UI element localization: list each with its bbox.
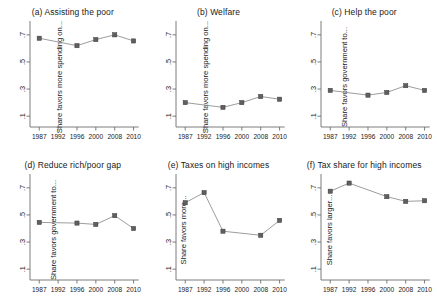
series-line [185,193,279,236]
x-tick-label: 2010 [126,286,141,293]
chart-panel-d: (d) Reduce rich/poor gapShare favors gov… [0,153,146,306]
y-tick-label: .3 [18,239,27,245]
y-tick-label: .7 [164,32,173,38]
data-point-marker [258,233,262,237]
x-tick-label: 1996 [361,286,376,293]
data-point-marker [75,221,79,225]
y-tick-label: .5 [18,59,27,65]
y-tick-label: .1 [164,113,173,119]
x-tick-label: 1992 [342,133,357,140]
x-tick-label: 2000 [89,286,104,293]
y-tick-label: .7 [310,32,319,38]
data-point-marker [347,181,351,185]
x-tick-label: 1992 [196,286,211,293]
x-tick-label: 2008 [107,286,122,293]
data-point-marker [366,93,370,97]
plot-area-c: .1.3.5.7198719921996200020082010 [291,0,437,153]
plot-area-e: .1.3.5.7198719921996200020082010 [146,153,292,306]
chart-panel-b: (b) WelfareShare favors more spending on… [146,0,292,153]
data-point-marker [221,229,225,233]
x-tick-label: 1987 [178,286,193,293]
data-point-marker [277,218,281,222]
y-tick-label: .1 [164,266,173,272]
data-point-marker [328,189,332,193]
chart-panel-c: (c) Help the poorShare favors government… [291,0,437,153]
series-line [185,97,279,108]
x-tick-label: 2008 [399,133,414,140]
data-point-marker [328,88,332,92]
y-tick-label: .5 [310,59,319,65]
plot-area-b: .1.3.5.7198719921996200020082010 [146,0,292,153]
data-point-marker [404,84,408,88]
plot-area-f: .1.3.5.7198719921996200020082010 [291,153,437,306]
data-point-marker [94,222,98,226]
x-tick-label: 2008 [399,286,414,293]
chart-panel-a: (a) Assisting the poorShare favors more … [0,0,146,153]
series-line [39,35,133,46]
plot-area-a: .1.3.5.7198719921996200020082010 [0,0,146,153]
x-tick-label: 1987 [32,286,47,293]
data-point-marker [37,36,41,40]
x-tick-label: 1992 [196,133,211,140]
x-tick-label: 1992 [51,286,66,293]
data-point-marker [131,226,135,230]
data-point-marker [277,97,281,101]
plot-area-d: .1.3.5.7198719921996200020082010 [0,153,146,306]
data-point-marker [183,101,187,105]
data-point-marker [423,199,427,203]
data-point-marker [202,190,206,194]
data-point-marker [183,201,187,205]
x-tick-label: 2008 [107,133,122,140]
x-tick-label: 2000 [380,133,395,140]
x-tick-label: 2010 [126,133,141,140]
data-point-marker [385,90,389,94]
x-tick-label: 2008 [253,133,268,140]
x-tick-label: 1992 [51,133,66,140]
x-tick-label: 1987 [323,133,338,140]
data-point-marker [113,33,117,37]
y-tick-label: .1 [18,113,27,119]
x-tick-label: 1996 [70,133,85,140]
y-tick-label: .1 [310,266,319,272]
x-tick-label: 2010 [418,286,433,293]
data-point-marker [113,214,117,218]
x-tick-label: 2010 [418,133,433,140]
chart-grid: (a) Assisting the poorShare favors more … [0,0,437,306]
data-point-marker [94,37,98,41]
x-tick-label: 2000 [234,286,249,293]
y-tick-label: .5 [164,212,173,218]
y-tick-label: .3 [310,86,319,92]
y-tick-label: .7 [164,185,173,191]
data-point-marker [131,39,135,43]
x-tick-label: 1996 [70,286,85,293]
x-tick-label: 1992 [342,286,357,293]
data-point-marker [385,195,389,199]
x-tick-label: 1996 [361,133,376,140]
x-tick-label: 2010 [272,286,287,293]
y-tick-label: .7 [18,32,27,38]
y-tick-label: .7 [310,185,319,191]
y-tick-label: .3 [310,239,319,245]
data-point-marker [75,44,79,48]
data-point-marker [239,101,243,105]
data-point-marker [221,105,225,109]
data-point-marker [423,88,427,92]
data-point-marker [258,94,262,98]
x-tick-label: 2010 [272,133,287,140]
y-tick-label: .1 [310,113,319,119]
x-tick-label: 1987 [323,286,338,293]
chart-panel-e: (e) Taxes on high incomesShare favors mo… [146,153,292,306]
y-tick-label: .3 [164,239,173,245]
chart-panel-f: (f) Tax share for high incomesShare favo… [291,153,437,306]
y-tick-label: .3 [18,86,27,92]
y-tick-label: .5 [164,59,173,65]
y-tick-label: .7 [18,185,27,191]
y-tick-label: .3 [164,86,173,92]
x-tick-label: 2008 [253,286,268,293]
series-line [331,86,425,95]
x-tick-label: 1987 [178,133,193,140]
y-tick-label: .5 [310,212,319,218]
x-tick-label: 1987 [32,133,47,140]
x-tick-label: 2000 [234,133,249,140]
series-line [39,216,133,229]
